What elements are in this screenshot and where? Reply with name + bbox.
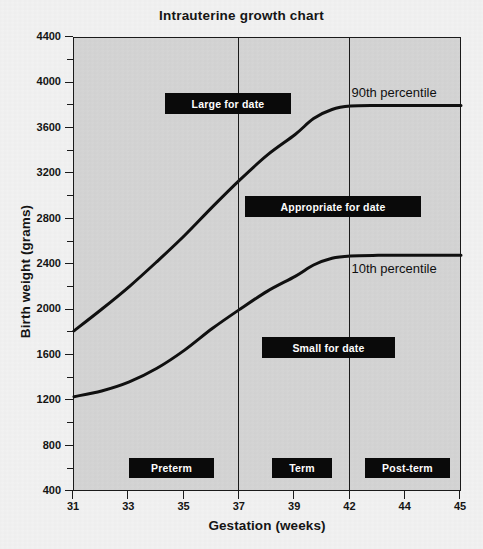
y-tick-minor (67, 150, 73, 151)
y-tick-minor (67, 468, 73, 469)
y-tick-minor (67, 422, 73, 423)
y-tick-minor (67, 195, 73, 196)
y-tick-minor (67, 377, 73, 378)
curve-10th-percentile (74, 255, 461, 396)
y-tick-major (65, 445, 73, 446)
y-tick-label: 2000 (15, 302, 61, 314)
y-tick-label: 400 (15, 484, 61, 496)
y-tick-label: 1600 (15, 348, 61, 360)
y-tick-minor (67, 104, 73, 105)
x-tick-label: 42 (329, 500, 369, 512)
x-tick-label: 44 (385, 500, 425, 512)
x-tick (238, 491, 239, 499)
x-tick-label: 39 (274, 500, 314, 512)
y-tick-major (65, 354, 73, 355)
x-tick (183, 491, 184, 499)
y-tick-label: 3200 (15, 166, 61, 178)
x-tick-label: 31 (53, 500, 93, 512)
callout-small-for-date: Small for date (262, 337, 395, 358)
y-tick-major (65, 309, 73, 310)
x-tick (127, 491, 128, 499)
x-tick-label: 33 (108, 500, 148, 512)
callout-large-for-date: Large for date (165, 93, 291, 114)
curve-label-10th-percentile: 10th percentile (351, 261, 436, 276)
y-tick-major (65, 127, 73, 128)
intrauterine-growth-chart: Intrauterine growth chart Birth weight (… (0, 0, 483, 549)
y-tick-major (65, 399, 73, 400)
y-tick-minor (67, 59, 73, 60)
y-tick-label: 1200 (15, 393, 61, 405)
y-tick-major (65, 263, 73, 264)
y-tick-label: 3600 (15, 121, 61, 133)
y-tick-label: 2800 (15, 212, 61, 224)
y-tick-major (65, 82, 73, 83)
y-tick-label: 800 (15, 439, 61, 451)
y-tick-label: 4000 (15, 75, 61, 87)
y-tick-major (65, 36, 73, 37)
x-tick-label: 37 (219, 500, 259, 512)
curve-label-90th-percentile: 90th percentile (351, 85, 436, 100)
y-tick-major (65, 218, 73, 219)
curve-90th-percentile (74, 105, 461, 330)
x-tick-label: 35 (164, 500, 204, 512)
x-tick (459, 491, 460, 499)
x-axis-title: Gestation (weeks) (73, 518, 461, 533)
x-tick (404, 491, 405, 499)
callout-term: Term (272, 458, 332, 478)
x-tick-label: 45 (440, 500, 480, 512)
callout-appropriate-for-date: Appropriate for date (245, 196, 421, 217)
y-tick-label: 4400 (15, 30, 61, 42)
x-tick (293, 491, 294, 499)
y-tick-major (65, 172, 73, 173)
x-tick (349, 491, 350, 499)
x-tick (72, 491, 73, 499)
callout-preterm: Preterm (129, 458, 214, 478)
callout-post-term: Post-term (365, 458, 450, 478)
y-tick-label: 2400 (15, 257, 61, 269)
page-title: Intrauterine growth chart (0, 8, 483, 23)
y-tick-minor (67, 331, 73, 332)
zone-divider-week-42 (349, 37, 350, 491)
y-tick-minor (67, 286, 73, 287)
y-tick-minor (67, 241, 73, 242)
